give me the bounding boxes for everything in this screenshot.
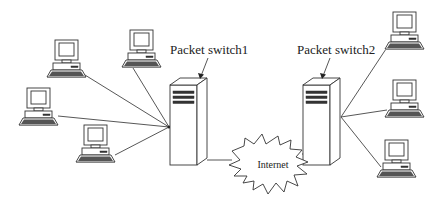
computer-a-icon: [47, 40, 86, 78]
packet-switch1-server-icon: [170, 78, 207, 165]
computer-e-icon: [385, 12, 424, 50]
packet-switch2-label: Packet switch2: [297, 42, 375, 57]
computer-d-icon: [76, 125, 115, 163]
computer-c-icon: [19, 88, 58, 126]
packet-switch2-server-icon: [303, 78, 340, 165]
links-switch2: [341, 49, 387, 167]
links-switch1: [58, 68, 171, 155]
arrow-switch1-icon: [198, 58, 208, 79]
computer-g-icon: [377, 140, 416, 178]
computer-f-icon: [385, 80, 424, 118]
internet-label: Internet: [257, 159, 288, 170]
computer-b-icon: [122, 30, 161, 68]
packet-switch1-label: Packet switch1: [170, 42, 248, 57]
arrow-switch2-icon: [320, 58, 330, 79]
network-diagram: Packet switch1 Packet switch2 Internet: [0, 0, 442, 206]
